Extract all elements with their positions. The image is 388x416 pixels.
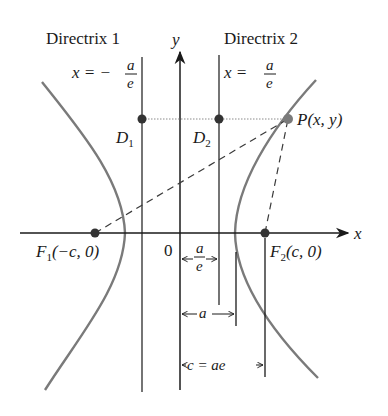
directrix-1-eq-denominator: e [127,75,134,91]
dim-a-label: a [199,305,207,321]
dim-a-over-e-numerator: a [196,240,204,256]
dashed-line-F2-P [265,119,288,233]
diagram-canvas: y x 0 Directrix 1 x = − a e Directrix 2 … [0,0,388,416]
point-F1 [91,229,100,238]
hyperbola-diagram: y x 0 Directrix 1 x = − a e Directrix 2 … [0,0,388,416]
x-axis-label: x [353,224,362,243]
directrix-1-eq-numerator: a [127,57,135,73]
directrix-2-title: Directrix 2 [224,29,298,48]
directrix-2-eq-denominator: e [266,75,273,91]
directrix-2-eq-numerator: a [266,57,274,73]
y-axis-label: y [170,30,180,49]
dim-c-label: c = ae [187,357,226,373]
hyperbola-left-branch [42,82,125,390]
label-P: P(x, y) [296,110,343,129]
label-F2: F2(c, 0) [269,242,322,263]
point-F2 [261,229,270,238]
origin-label: 0 [164,241,173,260]
label-D1: D1 [115,128,134,149]
dim-a-over-e-denominator: e [196,258,203,274]
point-P [283,114,293,124]
label-F1: F1(−c, 0) [35,242,100,263]
directrix-2-equation-lhs: x = [223,63,247,82]
point-D1 [138,115,147,124]
label-D2: D2 [192,128,211,149]
point-D2 [215,115,224,124]
directrix-1-equation-lhs: x = − [71,63,111,82]
directrix-1-title: Directrix 1 [46,29,120,48]
